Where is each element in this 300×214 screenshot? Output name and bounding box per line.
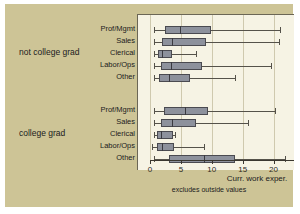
whisker-cap xyxy=(154,51,155,57)
whisker-cap xyxy=(196,51,197,57)
gridline xyxy=(243,15,244,160)
median-line xyxy=(180,26,181,34)
x-tick xyxy=(150,160,151,164)
x-tick-label: 15 xyxy=(238,165,247,174)
group-label: not college grad xyxy=(19,47,80,57)
median-line xyxy=(171,62,172,70)
boxplot-panel: 05101520 xyxy=(137,14,294,170)
gridline xyxy=(212,15,213,160)
category-label: Other xyxy=(116,153,135,162)
median-line xyxy=(172,119,173,127)
whisker-cap xyxy=(235,75,236,81)
whisker-cap xyxy=(154,156,155,162)
whisker-cap xyxy=(154,63,155,69)
whisker-cap xyxy=(285,156,286,162)
median-line xyxy=(161,131,162,139)
box xyxy=(158,50,172,58)
x-tick-label: 5 xyxy=(179,165,183,174)
whisker-cap xyxy=(154,39,155,45)
category-label: Prof/Mgmt xyxy=(100,24,135,33)
whisker-cap xyxy=(154,75,155,81)
gridline xyxy=(181,15,182,160)
box xyxy=(157,131,174,139)
median-line xyxy=(172,38,173,46)
whisker-cap xyxy=(271,63,272,69)
x-axis-line xyxy=(150,160,294,161)
box xyxy=(162,38,206,46)
box xyxy=(161,62,202,70)
whisker-cap xyxy=(204,144,205,150)
whisker-cap xyxy=(279,39,280,45)
x-tick-label: 0 xyxy=(148,165,152,174)
whisker-cap xyxy=(152,144,153,150)
whisker-cap xyxy=(248,120,249,126)
box xyxy=(165,26,210,34)
category-label: Labor/Ops xyxy=(100,60,135,69)
chart-note: excludes outside values xyxy=(172,186,246,193)
x-tick xyxy=(181,160,182,164)
median-line xyxy=(169,74,170,82)
category-label: Labor/Ops xyxy=(100,141,135,150)
x-tick xyxy=(243,160,244,164)
category-label: Other xyxy=(116,72,135,81)
category-label: Clerical xyxy=(110,129,135,138)
box xyxy=(164,107,208,115)
x-tick xyxy=(274,160,275,164)
x-tick-label: 20 xyxy=(269,165,278,174)
group-label: college grad xyxy=(19,128,65,138)
category-label-column: Prof/MgmtSalesClericalLabor/OpsOtherProf… xyxy=(65,14,135,169)
whisker-cap xyxy=(175,132,176,138)
median-line xyxy=(162,50,163,58)
gridline xyxy=(274,15,275,160)
whisker-cap xyxy=(280,27,281,33)
median-line xyxy=(162,143,163,151)
category-label: Sales xyxy=(116,117,135,126)
gridline xyxy=(150,15,151,160)
category-label: Prof/Mgmt xyxy=(100,105,135,114)
category-label: Clerical xyxy=(110,48,135,57)
x-tick-label: 10 xyxy=(207,165,216,174)
whisker-cap xyxy=(154,120,155,126)
x-tick xyxy=(212,160,213,164)
median-line xyxy=(185,107,186,115)
box xyxy=(157,143,174,151)
median-line xyxy=(204,155,205,163)
box xyxy=(159,74,190,82)
category-label: Sales xyxy=(116,36,135,45)
box xyxy=(169,155,236,163)
box xyxy=(161,119,197,127)
slide-background: Prof/MgmtSalesClericalLabor/OpsOtherProf… xyxy=(5,4,293,207)
whisker-cap xyxy=(154,108,155,114)
whisker-cap xyxy=(275,108,276,114)
whisker-cap xyxy=(154,132,155,138)
whisker-cap xyxy=(154,27,155,33)
x-axis-title: Curr. work exper. xyxy=(227,174,287,183)
